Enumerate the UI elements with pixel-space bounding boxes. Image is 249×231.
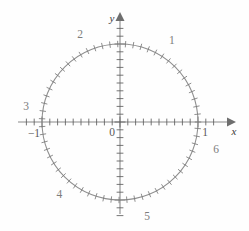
circle-arc-tick [40, 134, 46, 135]
x-axis-label: x [231, 125, 237, 137]
circle-arc-tick [161, 184, 165, 189]
unit-circle-figure: y x 0 −1 1 123456 [0, 0, 249, 231]
arc-length-label-3: 3 [23, 100, 29, 112]
circle-arc-tick [194, 136, 200, 137]
arc-length-label-6: 6 [213, 143, 219, 155]
circle-arc-tick [50, 80, 55, 83]
circle-arc-tick [194, 114, 200, 115]
circle-arc-tick [40, 111, 46, 112]
circle-arc-tick [195, 128, 201, 129]
x-axis-left-label: −1 [28, 127, 40, 139]
unit-circle-svg: y x 0 −1 1 123456 [0, 0, 249, 231]
origin-label: 0 [109, 126, 115, 138]
arc-length-label-2: 2 [77, 28, 83, 40]
circle-arc-tick [160, 54, 163, 59]
circle-arc-tick [182, 76, 187, 80]
axes-group [18, 12, 236, 214]
circle-arc-tick [110, 41, 111, 47]
circle-arc-tick [182, 163, 187, 167]
circle-arc-tick [80, 187, 83, 193]
arc-length-label-4: 4 [56, 188, 62, 200]
circle-arc-tick [55, 73, 60, 77]
circle-arc-tick [127, 197, 128, 203]
x-axis-right-label: 1 [202, 126, 208, 138]
circle-arc-tick [79, 52, 82, 58]
y-axis-arrow-icon [116, 12, 125, 21]
circle-arc-tick [73, 183, 77, 188]
circle-arc-tick [51, 162, 56, 165]
circle-arc-tick [56, 168, 61, 172]
y-axis-label: y [109, 12, 115, 24]
arc-length-label-1: 1 [169, 34, 175, 46]
circle-arc-tick [134, 195, 135, 201]
circle-arc-tick [133, 42, 134, 48]
circle-arc-tick [111, 196, 112, 202]
circle-arc-tick [72, 56, 76, 61]
arc-length-label-5: 5 [144, 210, 150, 222]
